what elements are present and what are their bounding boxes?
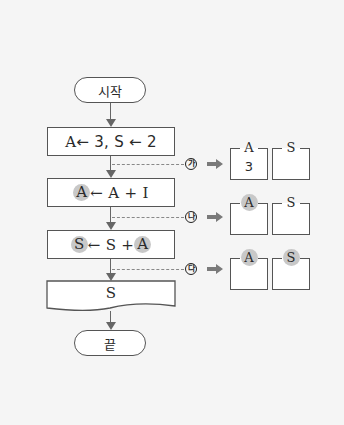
variable-label-s: S bbox=[283, 194, 300, 211]
right-arrow-icon bbox=[207, 159, 223, 169]
variable-box-s: S bbox=[272, 203, 310, 235]
arrow-down-icon bbox=[106, 222, 116, 230]
variable-box-a: A 3 bbox=[230, 148, 268, 180]
init-var-a: A bbox=[65, 133, 76, 151]
variable-box-a: A bbox=[230, 203, 268, 235]
variable-label-a-highlighted: A bbox=[241, 249, 258, 266]
variable-box-s: S bbox=[272, 258, 310, 290]
checkpoint-marker-ga: 가 bbox=[185, 158, 197, 170]
arrow-down-icon bbox=[106, 119, 116, 127]
arrow-down-icon bbox=[106, 170, 116, 178]
highlighted-var-s: S bbox=[71, 236, 88, 253]
process-box-increment-a: A ← A + I bbox=[47, 178, 175, 207]
end-terminal: 끝 bbox=[74, 330, 146, 356]
sum-expression: ← S + bbox=[88, 236, 134, 254]
connector-line bbox=[110, 259, 111, 274]
highlighted-var-a: A bbox=[134, 236, 151, 253]
connector-line bbox=[110, 103, 111, 119]
output-label: S bbox=[47, 284, 175, 302]
right-arrow-icon bbox=[207, 264, 223, 274]
checkpoint-dashed-line bbox=[112, 164, 184, 165]
variable-box-s: S bbox=[272, 148, 310, 180]
variable-label-s-highlighted: S bbox=[283, 249, 300, 266]
start-label: 시작 bbox=[98, 81, 122, 100]
start-terminal: 시작 bbox=[74, 77, 146, 103]
variable-label-a: A bbox=[241, 139, 258, 156]
connector-line bbox=[110, 207, 111, 223]
variable-box-a: A bbox=[230, 258, 268, 290]
process-box-sum-s: S ← S + A bbox=[47, 230, 175, 259]
right-arrow-icon bbox=[207, 212, 223, 222]
checkpoint-dashed-line bbox=[112, 269, 184, 270]
arrow-down-icon bbox=[106, 322, 116, 330]
end-label: 끝 bbox=[104, 334, 116, 353]
increment-expression: ← A + I bbox=[90, 184, 148, 202]
variable-label-s: S bbox=[283, 139, 300, 156]
highlighted-var-a: A bbox=[73, 184, 90, 201]
init-expression: ← 3, S ← 2 bbox=[76, 133, 157, 151]
checkpoint-marker-da: 다 bbox=[185, 263, 197, 275]
variable-value-a: 3 bbox=[231, 159, 267, 174]
variable-label-a-highlighted: A bbox=[241, 194, 258, 211]
checkpoint-dashed-line bbox=[112, 217, 184, 218]
checkpoint-marker-na: 나 bbox=[185, 211, 197, 223]
process-box-init: A ← 3, S ← 2 bbox=[47, 127, 175, 156]
